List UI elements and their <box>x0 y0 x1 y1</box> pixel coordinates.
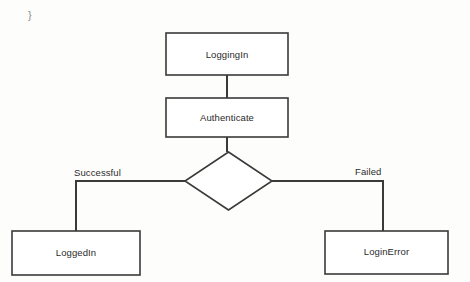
connector-decision-to-loginerror <box>272 181 383 231</box>
state-node-authenticate[interactable]: Authenticate <box>166 98 288 137</box>
state-node-loggingin[interactable]: LoggingIn <box>166 33 288 75</box>
diagram-canvas: } LoggingIn Authenticate LoggedIn <box>0 0 470 282</box>
state-node-loggedin[interactable]: LoggedIn <box>12 231 140 275</box>
edge-label-failed: Failed <box>355 166 381 177</box>
edge-label-successful: Successful <box>74 167 121 178</box>
decision-node-diamond <box>185 152 272 210</box>
state-node-authenticate-label: Authenticate <box>200 112 254 123</box>
state-node-loggedin-label: LoggedIn <box>56 247 96 258</box>
decision-node[interactable] <box>185 152 272 210</box>
state-diagram: LoggingIn Authenticate LoggedIn LoginErr… <box>0 0 470 282</box>
state-node-loggingin-label: LoggingIn <box>206 49 249 60</box>
state-node-loginerror-label: LoginError <box>364 246 409 257</box>
state-node-loginerror[interactable]: LoginError <box>325 231 448 274</box>
connector-decision-to-loggedin <box>76 181 185 231</box>
